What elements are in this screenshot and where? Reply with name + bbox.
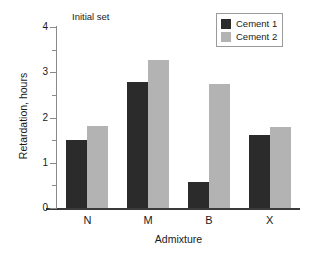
chart-title: Initial set bbox=[72, 11, 110, 22]
y-tick-label: 4 bbox=[34, 22, 48, 32]
legend-label: Cement 2 bbox=[236, 32, 277, 42]
x-tick-label-b: B bbox=[179, 214, 240, 226]
x-axis-title: Admixture bbox=[57, 233, 300, 245]
legend-item-1: Cement 1 bbox=[221, 17, 277, 30]
plot-area bbox=[57, 27, 300, 208]
y-axis-title: Retardation, hours bbox=[17, 41, 29, 191]
y-tick-label: 2 bbox=[34, 113, 48, 123]
legend-swatch-icon bbox=[221, 32, 231, 42]
x-tick-label-x: X bbox=[239, 214, 300, 226]
bar-n-series-1 bbox=[66, 140, 87, 208]
x-axis-spine bbox=[46, 208, 300, 210]
x-tick-label-n: N bbox=[57, 214, 118, 226]
legend-label: Cement 1 bbox=[236, 19, 277, 29]
bar-x-series-2 bbox=[270, 127, 291, 208]
y-tick-major bbox=[50, 208, 57, 209]
y-tick-major bbox=[50, 118, 57, 119]
legend: Cement 1Cement 2 bbox=[216, 13, 283, 47]
y-tick-major bbox=[50, 27, 57, 28]
bar-chart-figure: Initial set Retardation, hours Admixture… bbox=[0, 0, 311, 256]
y-tick-major bbox=[50, 163, 57, 164]
bar-b-series-1 bbox=[188, 182, 209, 208]
y-tick-label: 1 bbox=[34, 158, 48, 168]
y-tick-major bbox=[50, 72, 57, 73]
y-tick-label: 3 bbox=[34, 67, 48, 77]
legend-swatch-icon bbox=[221, 19, 231, 29]
bar-m-series-1 bbox=[127, 82, 148, 208]
y-tick-label: 0 bbox=[34, 203, 48, 213]
bar-m-series-2 bbox=[148, 60, 169, 208]
bar-n-series-2 bbox=[87, 126, 108, 208]
legend-item-2: Cement 2 bbox=[221, 30, 277, 43]
bar-b-series-2 bbox=[209, 84, 230, 208]
bar-x-series-1 bbox=[249, 135, 270, 208]
x-tick-label-m: M bbox=[118, 214, 179, 226]
